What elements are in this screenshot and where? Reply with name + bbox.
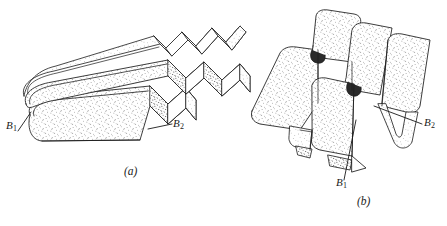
label-panel-a-b2-subscript: 2 [180, 122, 184, 131]
caption-panel-b: (b) [357, 196, 370, 208]
label-panel-b-b1: B1 [336, 177, 347, 190]
label-panel-a-b2: B2 [173, 118, 184, 131]
label-panel-a-b1-base: B [6, 119, 13, 131]
label-panel-b-b2-subscript: 2 [431, 121, 435, 130]
label-panel-b-b2-base: B [424, 116, 431, 128]
figure-container: B1 B2 (a) B1 B2 (b) [0, 0, 447, 226]
caption-panel-a: (a) [124, 166, 137, 178]
label-panel-b-b1-subscript: 1 [343, 181, 347, 190]
label-panel-b-b2: B2 [424, 117, 435, 130]
label-panel-a-b1: B1 [6, 120, 17, 133]
label-panel-a-b1-subscript: 1 [13, 124, 17, 133]
figure-illustration [0, 0, 447, 226]
label-panel-a-b2-base: B [173, 117, 180, 129]
label-panel-b-b1-base: B [336, 176, 343, 188]
